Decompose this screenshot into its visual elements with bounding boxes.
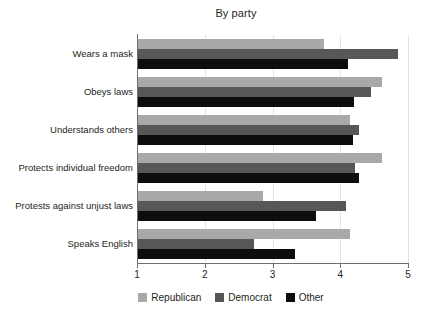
category-label: Speaks English (2, 238, 133, 249)
chart-title: By party (0, 7, 432, 19)
x-tick-mark (137, 263, 138, 268)
bar (137, 77, 382, 87)
legend-swatch-icon (138, 293, 147, 302)
legend-item[interactable]: Other (286, 292, 324, 303)
bar (137, 191, 263, 201)
bar (137, 249, 295, 259)
bar (137, 239, 254, 249)
bar (137, 59, 348, 69)
category-axis-labels: Wears a maskObeys lawsUnderstands others… (0, 35, 133, 263)
x-tick-label: 2 (193, 269, 217, 280)
bar (137, 49, 398, 59)
plot-area (137, 35, 408, 263)
category-label: Wears a mask (2, 48, 133, 59)
bar (137, 115, 350, 125)
legend-swatch-icon (286, 293, 295, 302)
x-tick-mark (340, 263, 341, 268)
bar (137, 211, 316, 221)
y-axis-line (137, 34, 138, 264)
bar (137, 87, 371, 97)
x-tick-label: 3 (261, 269, 285, 280)
bar (137, 201, 346, 211)
bar (137, 229, 350, 239)
bar (137, 153, 382, 163)
bar (137, 125, 359, 135)
bar (137, 97, 354, 107)
bar (137, 135, 353, 145)
bar (137, 39, 324, 49)
category-label: Protects individual freedom (2, 162, 133, 173)
chart-title-text: By party (175, 7, 256, 19)
legend-swatch-icon (215, 293, 224, 302)
category-label: Understands others (2, 124, 133, 135)
bar (137, 163, 355, 173)
x-tick-label: 1 (125, 269, 149, 280)
legend-item[interactable]: Democrat (215, 292, 271, 303)
x-tick-label: 5 (396, 269, 420, 280)
category-label: Protests against unjust laws (2, 200, 133, 211)
legend-label: Other (299, 292, 324, 303)
x-tick-mark (273, 263, 274, 268)
x-tick-mark (408, 263, 409, 268)
x-tick-mark (205, 263, 206, 268)
bar (137, 173, 359, 183)
legend-item[interactable]: Republican (138, 292, 201, 303)
chart-container: By party Wears a maskObeys lawsUnderstan… (0, 0, 432, 319)
chart-legend: RepublicanDemocratOther (0, 292, 432, 303)
x-tick-label: 4 (328, 269, 352, 280)
category-label: Obeys laws (2, 86, 133, 97)
legend-label: Republican (151, 292, 201, 303)
legend-label: Democrat (228, 292, 271, 303)
gridline (408, 35, 409, 263)
